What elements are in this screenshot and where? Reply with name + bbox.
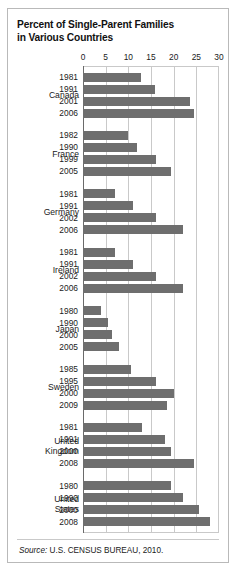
bar bbox=[83, 167, 171, 176]
country-group: Japan1980199020002005 bbox=[17, 300, 219, 358]
bar-track bbox=[83, 458, 219, 469]
country-group: Ireland1981199120022006 bbox=[17, 241, 219, 299]
year-label: 1985 bbox=[17, 365, 83, 373]
year-label: 1981 bbox=[17, 190, 83, 198]
bar bbox=[83, 435, 165, 444]
year-label: 2006 bbox=[17, 109, 83, 117]
source-label: Source: bbox=[19, 546, 47, 555]
country-label: Ireland bbox=[17, 265, 79, 275]
bar-track bbox=[83, 142, 219, 153]
bar bbox=[83, 284, 183, 293]
bar-track bbox=[83, 130, 219, 141]
x-tick-label: 20 bbox=[169, 52, 178, 62]
x-tick-label: 0 bbox=[81, 52, 86, 62]
country-label: Germany bbox=[17, 207, 79, 217]
bar bbox=[83, 447, 171, 456]
x-tick-label: 15 bbox=[146, 52, 155, 62]
country-group: Germany1981199120022006 bbox=[17, 183, 219, 241]
bar-row: 2008 bbox=[17, 516, 219, 527]
bar bbox=[83, 155, 156, 164]
country-group: Sweden1985199520002009 bbox=[17, 358, 219, 416]
country-group: France1982199019992005 bbox=[17, 124, 219, 182]
year-label: 2005 bbox=[17, 167, 83, 175]
bar bbox=[83, 272, 156, 281]
bar-track bbox=[83, 492, 219, 503]
bar-row: 2006 bbox=[17, 108, 219, 119]
bar-row: 2009 bbox=[17, 400, 219, 411]
year-label: 2006 bbox=[17, 226, 83, 234]
chart-body: Canada1981199120012006France198219901999… bbox=[17, 66, 219, 533]
country-label: Japan bbox=[17, 323, 79, 333]
bar bbox=[83, 401, 167, 410]
bar bbox=[83, 109, 194, 118]
bar-track bbox=[83, 247, 219, 258]
bar-track bbox=[83, 108, 219, 119]
country-group: Canada1981199120012006 bbox=[17, 66, 219, 124]
bar-track bbox=[83, 329, 219, 340]
year-label: 1980 bbox=[17, 307, 83, 315]
bar-track bbox=[83, 388, 219, 399]
bar bbox=[83, 342, 119, 351]
bar-track bbox=[83, 516, 219, 527]
year-label: 2008 bbox=[17, 459, 83, 467]
year-label: 1981 bbox=[17, 248, 83, 256]
chart-title: Percent of Single-Parent Families in Var… bbox=[17, 18, 219, 45]
bar bbox=[83, 85, 155, 94]
year-label: 2009 bbox=[17, 401, 83, 409]
country-label: Canada bbox=[17, 90, 79, 100]
bar-row: 2005 bbox=[17, 341, 219, 352]
bar-row: 1985 bbox=[17, 364, 219, 375]
chart-figure: Percent of Single-Parent Families in Var… bbox=[0, 0, 236, 570]
bar-row: 1981 bbox=[17, 188, 219, 199]
bar bbox=[83, 248, 115, 257]
bar-track bbox=[83, 154, 219, 165]
bar bbox=[83, 377, 156, 386]
bar-track bbox=[83, 400, 219, 411]
country-label: United States bbox=[17, 493, 79, 514]
source-note: Source: U.S. CENSUS BUREAU, 2010. bbox=[17, 540, 219, 556]
bar bbox=[83, 318, 108, 327]
country-group: United Kingdom1981199120002008 bbox=[17, 416, 219, 474]
bar-track bbox=[83, 200, 219, 211]
x-axis-tick-labels: 051015202530 bbox=[83, 52, 219, 65]
bar bbox=[83, 423, 142, 432]
country-group: United States1980199020002008 bbox=[17, 475, 219, 533]
bar bbox=[83, 225, 183, 234]
year-label: 1980 bbox=[17, 482, 83, 490]
bar-track bbox=[83, 434, 219, 445]
bar-track bbox=[83, 212, 219, 223]
bar-track bbox=[83, 504, 219, 515]
bar-track bbox=[83, 317, 219, 328]
bar-track bbox=[83, 96, 219, 107]
bar-track bbox=[83, 341, 219, 352]
year-label: 2006 bbox=[17, 284, 83, 292]
bar-row: 2006 bbox=[17, 224, 219, 235]
bar-track bbox=[83, 376, 219, 387]
bar-track bbox=[83, 166, 219, 177]
bar bbox=[83, 73, 141, 82]
bar bbox=[83, 505, 199, 514]
bar-row: 1981 bbox=[17, 422, 219, 433]
chart-title-line-2: in Various Countries bbox=[17, 31, 219, 44]
year-label: 2005 bbox=[17, 343, 83, 351]
bar-track bbox=[83, 84, 219, 95]
bar bbox=[83, 493, 183, 502]
bar-track bbox=[83, 305, 219, 316]
bar bbox=[83, 389, 174, 398]
bar-track bbox=[83, 188, 219, 199]
bar bbox=[83, 201, 133, 210]
bar bbox=[83, 260, 133, 269]
chart-title-line-1: Percent of Single-Parent Families bbox=[17, 18, 219, 31]
bar bbox=[83, 481, 171, 490]
bar-row: 2008 bbox=[17, 458, 219, 469]
bar-row: 1980 bbox=[17, 305, 219, 316]
bar-track bbox=[83, 480, 219, 491]
bar-row: 1980 bbox=[17, 480, 219, 491]
bar bbox=[83, 517, 210, 526]
x-tick-label: 5 bbox=[103, 52, 108, 62]
x-tick-label: 10 bbox=[124, 52, 133, 62]
country-label: United Kingdom bbox=[17, 435, 79, 456]
bar bbox=[83, 143, 137, 152]
bar bbox=[83, 131, 128, 140]
chart-frame: Percent of Single-Parent Families in Var… bbox=[7, 8, 229, 563]
